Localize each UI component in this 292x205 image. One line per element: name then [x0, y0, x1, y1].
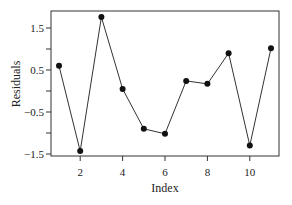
y-tick-label: −1.5 — [24, 148, 44, 160]
data-point — [120, 86, 126, 92]
residuals-line-chart: −1.5−0.50.51.5 246810 Index Residuals — [0, 0, 292, 205]
x-tick-label: 8 — [205, 166, 211, 178]
x-tick-label: 2 — [77, 166, 83, 178]
series-points — [56, 14, 274, 154]
x-tick-label: 4 — [120, 166, 126, 178]
data-point — [56, 63, 62, 69]
x-tick-label: 6 — [162, 166, 168, 178]
data-point — [268, 45, 274, 51]
data-point — [98, 14, 104, 20]
y-tick-label: 0.5 — [30, 64, 44, 76]
y-axis-label: Residuals — [9, 60, 23, 107]
data-point — [247, 143, 253, 149]
data-point — [77, 148, 83, 154]
data-point — [204, 81, 210, 87]
y-tick-label: 1.5 — [30, 22, 44, 34]
x-axis-label: Index — [151, 181, 178, 195]
data-point — [226, 50, 232, 56]
y-axis: −1.5−0.50.51.5 — [24, 22, 51, 160]
x-axis: 246810 — [77, 156, 255, 178]
x-tick-label: 10 — [244, 166, 256, 178]
data-point — [141, 126, 147, 132]
data-point — [162, 131, 168, 137]
y-tick-label: −0.5 — [24, 106, 44, 118]
data-point — [183, 78, 189, 84]
